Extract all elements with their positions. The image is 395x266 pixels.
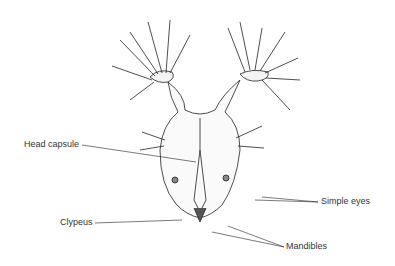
label-head-capsule: Head capsule <box>24 139 79 149</box>
label-clypeus: Clypeus <box>60 217 93 227</box>
label-simple-eyes: Simple eyes <box>321 196 370 206</box>
label-mandibles: Mandibles <box>286 241 327 251</box>
